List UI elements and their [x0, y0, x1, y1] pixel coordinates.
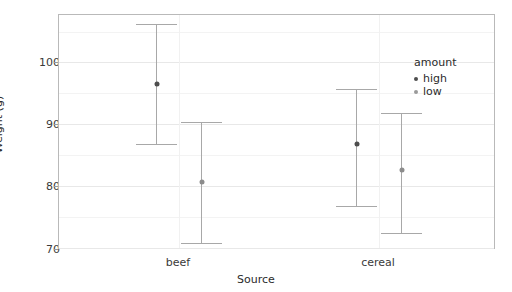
gridline-category-beef — [179, 15, 180, 248]
errorbar-line-cereal-low — [401, 113, 402, 233]
errorbar-cap-bottom-cereal-low — [381, 233, 422, 234]
gridline-major-80 — [59, 186, 494, 187]
legend-label-low: low — [423, 85, 442, 98]
errorbar-cap-bottom-beef-high — [136, 144, 177, 145]
gridline-category-cereal — [379, 15, 380, 248]
data-point-beef-high — [154, 82, 159, 87]
errorbar-cap-top-beef-high — [136, 24, 177, 25]
errorbar-cap-top-cereal-low — [381, 113, 422, 114]
legend-item-high[interactable]: high — [414, 72, 456, 85]
errorbar-cap-top-beef-low — [181, 122, 222, 123]
data-point-beef-low — [199, 180, 204, 185]
legend-label-high: high — [423, 72, 447, 85]
legend-item-low[interactable]: low — [414, 85, 456, 98]
legend-swatch-high-icon — [414, 77, 418, 81]
y-tick-mark-70 — [54, 249, 58, 250]
gridline-minor-75 — [59, 217, 494, 218]
x-tick-label-cereal: cereal — [361, 256, 395, 269]
legend-title: amount — [414, 56, 456, 69]
data-point-cereal-high — [354, 142, 359, 147]
legend: amount high low — [414, 56, 456, 98]
data-point-cereal-low — [399, 168, 404, 173]
y-axis-title: Weight (g) — [0, 96, 5, 153]
gridline-minor-85 — [59, 155, 494, 156]
gridline-major-90 — [59, 124, 494, 125]
errorbar-cap-top-cereal-high — [336, 89, 377, 90]
gridline-major-70 — [59, 248, 494, 249]
x-tick-label-beef: beef — [166, 256, 190, 269]
x-axis-title: Source — [237, 273, 275, 286]
chart-container: Weight (g) 100 90 80 70 — [0, 0, 512, 292]
errorbar-cap-bottom-cereal-high — [336, 206, 377, 207]
errorbar-cap-bottom-beef-low — [181, 243, 222, 244]
plot-panel — [58, 14, 495, 249]
legend-swatch-low-icon — [414, 90, 418, 94]
errorbar-line-cereal-high — [356, 89, 357, 206]
gridline-minor-105 — [59, 32, 494, 33]
